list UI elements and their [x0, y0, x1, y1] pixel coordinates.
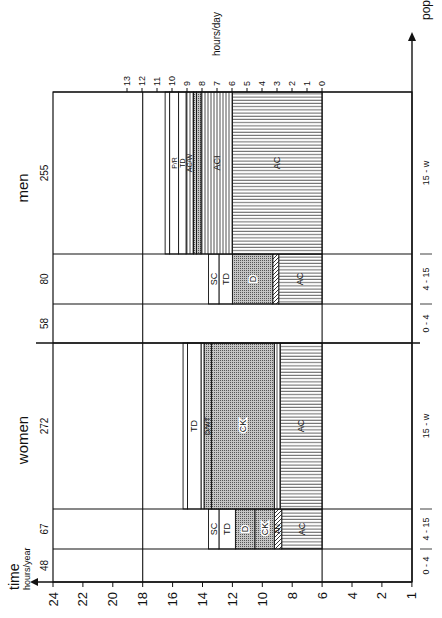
band-label: TD: [222, 523, 232, 535]
hours-day-tick-label: 2: [287, 81, 297, 86]
age-group-label: 0 - 4: [421, 556, 431, 574]
band-hy: [183, 343, 187, 509]
band-label: CK: [238, 420, 248, 433]
time-tick-label: 22: [75, 592, 90, 606]
axis-title-hours-year: hours/year: [22, 547, 32, 590]
time-tick-label: 16: [165, 592, 180, 606]
hours-day-tick-label: 4: [257, 81, 267, 86]
time-tick-label: 10: [255, 592, 270, 606]
time-tick-label: 18: [135, 592, 150, 606]
time-tick-label: 14: [195, 592, 210, 606]
time-tick-label: 8: [285, 592, 300, 599]
time-tick-label: 12: [225, 592, 240, 606]
band-p-r: [170, 92, 179, 254]
band-label: ACI: [212, 155, 222, 170]
band-an: [273, 254, 279, 304]
band-label: D/WT: [204, 416, 211, 435]
time-tick-label: 4: [345, 592, 360, 599]
pop-axis-arrow-icon: [408, 32, 416, 41]
time-tick-label: 2: [374, 592, 389, 599]
band-label: AC/W: [186, 153, 193, 172]
band-td: [179, 92, 186, 254]
axis-title-pop-no: pop. no.: [419, 0, 433, 20]
pop-count-label: 255: [39, 164, 50, 181]
age-group-label: 0 - 4: [421, 314, 431, 332]
band-label: TD: [221, 273, 231, 285]
band-label: TD: [179, 158, 186, 167]
band-d: [197, 92, 201, 254]
hours-day-tick-label: 8: [197, 81, 207, 86]
group-label-women: women: [14, 416, 31, 465]
hours-day-tick-label: 9: [182, 81, 192, 86]
pop-count-label: 48: [39, 560, 50, 572]
band-label: AC: [295, 272, 305, 285]
hours-day-tick-label: 12: [137, 76, 147, 86]
band-label: AC: [272, 156, 282, 169]
pop-count-label: 58: [39, 318, 50, 330]
axis-title-time: time: [6, 563, 22, 590]
band-label: TD: [189, 420, 199, 432]
pop-count-label: 80: [39, 273, 50, 285]
band-label: AN: [274, 524, 281, 534]
band-label: CK: [260, 523, 270, 536]
time-tick-label: 6: [315, 592, 330, 599]
age-group-label: 4 - 15: [421, 267, 431, 290]
band-hy: [165, 92, 169, 254]
band-label: P/R: [171, 157, 178, 169]
age-group-label: 4 - 15: [421, 517, 431, 540]
time-tick-label: 20: [105, 592, 120, 606]
hours-day-tick-label: 13: [122, 76, 132, 86]
axis-title-hours-day: hours/day: [211, 12, 222, 56]
age-group-label: 15 - w: [421, 160, 431, 185]
band-ac: [232, 92, 322, 254]
band-aci: [201, 92, 232, 254]
band-label: SC: [209, 522, 219, 535]
band-label: D: [248, 275, 258, 282]
band-label: AC: [296, 419, 306, 432]
hours-day-tick-label: 0: [317, 81, 327, 86]
band-label: D: [240, 525, 250, 532]
age-group-label: 15 - w: [421, 413, 431, 438]
hours-day-tick-label: 7: [212, 81, 222, 86]
band-label: AC: [297, 522, 307, 535]
band-ac-w: [274, 343, 280, 509]
hours-day-tick-label: 5: [242, 81, 252, 86]
time-tick-label: 1: [404, 592, 419, 599]
band-label: SC: [209, 272, 219, 285]
pop-count-label: 67: [39, 523, 50, 535]
hours-day-tick-label: 3: [272, 81, 282, 86]
pop-count-label: 272: [39, 417, 50, 434]
hours-day-tick-label: 10: [167, 76, 177, 86]
hours-day-tick-label: 6: [227, 81, 237, 86]
hours-day-tick-label: 1: [302, 81, 312, 86]
group-label-men: men: [14, 173, 31, 202]
time-tick-label: 24: [46, 592, 61, 606]
time-budget-chart: 242220181614121086421131211109876543210 …: [0, 0, 442, 618]
hours-day-tick-label: 11: [152, 77, 162, 86]
